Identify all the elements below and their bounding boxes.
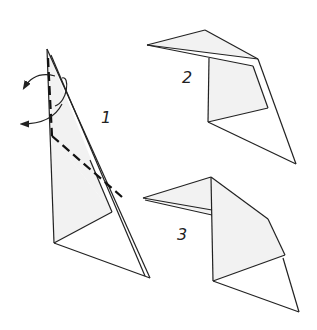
step-3-label: 3 (177, 225, 187, 244)
step-2-figure (147, 30, 296, 164)
step-3-figure (143, 177, 299, 312)
step-2-label: 2 (182, 68, 192, 87)
step-1-label: 1 (101, 108, 111, 127)
step-1-figure (22, 49, 150, 278)
origami-diagram: 1 2 3 (0, 0, 317, 330)
